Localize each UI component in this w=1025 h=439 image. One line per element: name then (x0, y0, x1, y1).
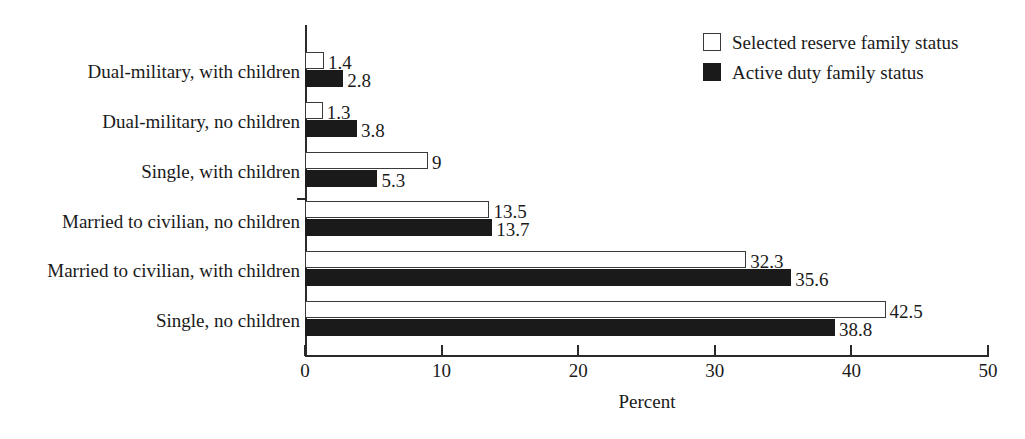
bar-s1-c1 (305, 120, 357, 137)
category-label-0: Dual-military, with children (5, 62, 300, 81)
category-label-4: Married to civilian, with children (5, 261, 300, 280)
bar-value-label-s0-c2: 9 (432, 153, 442, 172)
x-axis-title: Percent (305, 392, 989, 411)
x-tick-label-4: 40 (821, 361, 881, 380)
bar-s0-c5 (305, 301, 886, 318)
category-label-5: Single, no children (5, 311, 300, 330)
bar-s0-c0 (305, 52, 324, 69)
bar-s1-c2 (305, 170, 377, 187)
open-square-swatch-icon (703, 33, 721, 51)
bar-s0-c4 (305, 251, 746, 268)
bar-s1-c3 (305, 219, 492, 236)
bar-s1-c5 (305, 319, 835, 336)
category-label-3: Married to civilian, no children (5, 212, 300, 231)
legend-entry-active-duty: Active duty family status (703, 57, 1023, 87)
x-tick-label-0: 0 (275, 361, 335, 380)
bar-s0-c3 (305, 201, 489, 218)
x-tick-label-5: 50 (958, 361, 1018, 380)
x-tick-label-1: 10 (412, 361, 472, 380)
bar-value-label-s1-c1: 3.8 (361, 121, 385, 140)
category-axis-labels: Dual-military, with children Dual-milita… (0, 0, 300, 439)
bar-s0-c1 (305, 102, 323, 119)
x-tick-3 (714, 345, 716, 356)
legend-label-selected-reserve: Selected reserve family status (732, 33, 958, 52)
bar-value-label-s1-c0: 2.8 (347, 71, 371, 90)
x-axis-line (305, 355, 989, 357)
y-axis-minor-tick (297, 198, 306, 200)
bar-s1-c4 (305, 269, 791, 286)
bar-value-label-s1-c2: 5.3 (381, 171, 405, 190)
bar-s0-c2 (305, 152, 428, 169)
x-tick-label-3: 30 (685, 361, 745, 380)
legend-entry-selected-reserve: Selected reserve family status (703, 27, 1023, 57)
x-tick-label-2: 20 (548, 361, 608, 380)
x-tick-5 (987, 345, 989, 356)
bar-s1-c0 (305, 70, 343, 87)
bar-chart-figure: Selected reserve family status Active du… (0, 0, 1025, 439)
x-tick-0 (304, 345, 306, 356)
x-tick-1 (441, 345, 443, 356)
bar-value-label-s1-c5: 38.8 (839, 320, 872, 339)
filled-square-swatch-icon (703, 63, 721, 81)
x-tick-4 (850, 345, 852, 356)
legend-label-active-duty: Active duty family status (732, 63, 924, 82)
x-tick-2 (577, 345, 579, 356)
bar-value-label-s1-c3: 13.7 (496, 220, 529, 239)
bar-value-label-s0-c5: 42.5 (890, 302, 923, 321)
chart-legend: Selected reserve family status Active du… (703, 27, 1023, 87)
category-label-2: Single, with children (5, 162, 300, 181)
category-label-1: Dual-military, no children (5, 112, 300, 131)
bar-value-label-s1-c4: 35.6 (795, 270, 828, 289)
